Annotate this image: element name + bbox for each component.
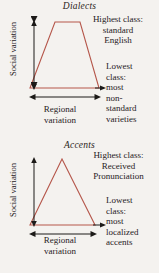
accents-horizontal-axis-label-line1: Regional (18, 235, 102, 246)
figure-dialects: Dialects Social variation Regional (0, 0, 159, 136)
accents-horizontal-axis-label: Regional variation (18, 235, 102, 257)
dialects-vertical-axis-label: Social variation (8, 6, 18, 92)
accents-axis-arrowhead-up (31, 157, 37, 163)
accents-bottom-annot-line1: Lowest (106, 195, 159, 206)
accents-top-annot-line1: Highest class: (78, 150, 159, 161)
dialects-axis-arrowhead-down (31, 84, 37, 90)
dialects-horizontal-axis-label-line2: variation (18, 115, 102, 126)
accents-highest-class-annotation: Highest class: Received Pronunciation (78, 150, 159, 182)
accents-bottom-annot-line4: localized (106, 227, 159, 238)
accents-axis-arrowhead-down (31, 221, 37, 227)
accents-top-annot-line3: Pronunciation (78, 171, 159, 182)
dialects-bottom-annot-line6: varieties (106, 114, 159, 125)
dialects-bottom-annot-line3: most (106, 82, 159, 93)
dialects-lowest-class-annotation: Lowest class: most non- standard varieti… (106, 61, 159, 125)
dialects-horizontal-axis-label-line1: Regional (18, 104, 102, 115)
accents-lowest-class-annotation: Lowest class: most localized accents (106, 195, 159, 248)
accents-bottom-annot-line5: accents (106, 237, 159, 248)
dialects-top-annot-line1: Highest class: (78, 14, 158, 25)
dialects-top-annot-line2: standard (78, 25, 158, 36)
figure-accents: Accents Social variation Regional variat… (0, 137, 159, 273)
dialects-axis-arrowhead-left (29, 94, 36, 100)
dialects-top-annot-line3: English (78, 35, 158, 46)
dialects-bottom-annot-line5: standard (106, 103, 159, 114)
accents-vertical-axis-label: Social variation (8, 147, 18, 233)
dialects-axis-arrowhead-right (95, 94, 102, 100)
dialects-highest-class-annotation: Highest class: standard English (78, 14, 158, 46)
dialects-horizontal-axis-label: Regional variation (18, 104, 102, 126)
dialects-bottom-annot-line1: Lowest (106, 61, 159, 72)
accents-bottom-annot-line3: most (106, 216, 159, 227)
dialects-bottom-annot-line2: class: (106, 72, 159, 83)
dialects-bottom-annot-line4: non- (106, 93, 159, 104)
accents-horizontal-axis-label-line2: variation (18, 246, 102, 257)
accents-top-annot-line2: Received (78, 161, 159, 172)
accents-bottom-annot-line2: class: (106, 206, 159, 217)
dialects-axis-arrowhead-up (31, 20, 37, 26)
